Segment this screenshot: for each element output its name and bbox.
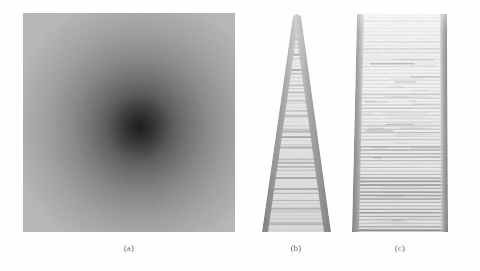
panel-c-caption: (c) bbox=[380, 243, 420, 253]
panel-b-caption: (b) bbox=[276, 243, 316, 253]
panel-a-image bbox=[23, 13, 235, 232]
panel-a-caption: (a) bbox=[109, 243, 149, 253]
panel-b-image bbox=[255, 10, 337, 236]
panel-c-image bbox=[346, 10, 456, 236]
figure-container: (a) bbox=[0, 0, 480, 271]
